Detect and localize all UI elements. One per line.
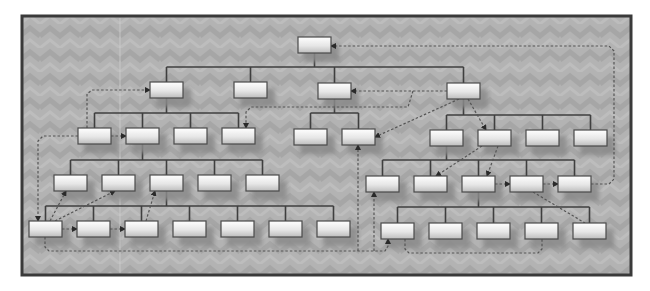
org-node-box[interactable] xyxy=(221,221,254,237)
org-node-box[interactable] xyxy=(78,128,111,144)
org-node-D3-3[interactable] xyxy=(462,176,495,192)
org-node-A4-6[interactable] xyxy=(269,221,302,237)
org-node-box[interactable] xyxy=(174,128,207,144)
org-node-D4-1[interactable] xyxy=(381,223,414,239)
org-node-A4-5[interactable] xyxy=(221,221,254,237)
org-node-D3-5[interactable] xyxy=(558,176,591,192)
org-node-D4-5[interactable] xyxy=(573,223,606,239)
org-node-A4-2[interactable] xyxy=(77,221,110,237)
org-node-box[interactable] xyxy=(462,176,495,192)
org-node-L1-1[interactable] xyxy=(150,82,183,98)
org-node-A2-2[interactable] xyxy=(126,128,159,144)
org-node-box[interactable] xyxy=(342,129,375,145)
org-node-D2-4[interactable] xyxy=(574,130,607,146)
org-node-box[interactable] xyxy=(429,223,462,239)
org-node-box[interactable] xyxy=(222,128,255,144)
org-node-D3-2[interactable] xyxy=(414,176,447,192)
org-node-A4-1[interactable] xyxy=(29,221,62,237)
org-node-box[interactable] xyxy=(126,128,159,144)
org-node-box[interactable] xyxy=(574,130,607,146)
org-node-L1-2[interactable] xyxy=(234,82,267,98)
org-node-box[interactable] xyxy=(294,129,327,145)
org-node-A3-1[interactable] xyxy=(54,175,87,191)
org-node-D3-4[interactable] xyxy=(510,176,543,192)
org-node-box[interactable] xyxy=(29,221,62,237)
org-node-A2-3[interactable] xyxy=(174,128,207,144)
org-node-box[interactable] xyxy=(198,175,231,191)
org-node-A2-4[interactable] xyxy=(222,128,255,144)
org-chart-diagram xyxy=(0,0,650,291)
org-node-A4-3[interactable] xyxy=(125,221,158,237)
diagram-stage xyxy=(0,0,650,291)
org-node-A3-2[interactable] xyxy=(102,175,135,191)
org-node-A2-1[interactable] xyxy=(78,128,111,144)
org-node-box[interactable] xyxy=(366,176,399,192)
org-node-box[interactable] xyxy=(77,221,110,237)
org-node-box[interactable] xyxy=(573,223,606,239)
org-node-D2-3[interactable] xyxy=(526,130,559,146)
org-node-box[interactable] xyxy=(150,82,183,98)
org-node-root[interactable] xyxy=(298,37,331,53)
org-node-L1-3[interactable] xyxy=(318,83,351,99)
org-node-A3-4[interactable] xyxy=(198,175,231,191)
org-node-box[interactable] xyxy=(430,130,463,146)
org-node-box[interactable] xyxy=(102,175,135,191)
org-node-A4-7[interactable] xyxy=(317,221,350,237)
org-node-D4-3[interactable] xyxy=(477,223,510,239)
org-node-box[interactable] xyxy=(478,130,511,146)
org-node-box[interactable] xyxy=(317,221,350,237)
org-node-box[interactable] xyxy=(318,83,351,99)
org-node-box[interactable] xyxy=(381,223,414,239)
org-node-A3-3[interactable] xyxy=(150,175,183,191)
org-node-box[interactable] xyxy=(234,82,267,98)
org-node-box[interactable] xyxy=(150,175,183,191)
org-node-box[interactable] xyxy=(298,37,331,53)
org-node-box[interactable] xyxy=(525,223,558,239)
org-node-box[interactable] xyxy=(477,223,510,239)
org-node-D4-2[interactable] xyxy=(429,223,462,239)
org-node-D2-2[interactable] xyxy=(478,130,511,146)
org-node-box[interactable] xyxy=(526,130,559,146)
org-node-L1-4[interactable] xyxy=(447,83,480,99)
org-node-D4-4[interactable] xyxy=(525,223,558,239)
org-node-C2-2[interactable] xyxy=(342,129,375,145)
org-node-A4-4[interactable] xyxy=(173,221,206,237)
org-node-box[interactable] xyxy=(269,221,302,237)
org-node-box[interactable] xyxy=(510,176,543,192)
org-node-box[interactable] xyxy=(447,83,480,99)
org-node-box[interactable] xyxy=(173,221,206,237)
org-node-box[interactable] xyxy=(414,176,447,192)
org-node-D3-1[interactable] xyxy=(366,176,399,192)
org-node-box[interactable] xyxy=(125,221,158,237)
org-node-box[interactable] xyxy=(54,175,87,191)
org-node-box[interactable] xyxy=(558,176,591,192)
org-node-C2-1[interactable] xyxy=(294,129,327,145)
org-node-A3-5[interactable] xyxy=(246,175,279,191)
org-node-box[interactable] xyxy=(246,175,279,191)
org-node-D2-1[interactable] xyxy=(430,130,463,146)
